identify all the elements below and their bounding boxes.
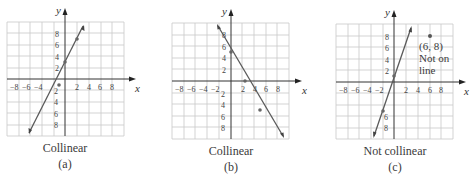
- point-c-off-line: [428, 34, 432, 38]
- annotation-line1: Not on: [419, 52, 449, 64]
- svg-text:4: 4: [87, 83, 91, 92]
- svg-text:−6: −6: [187, 85, 196, 94]
- svg-text:6: 6: [222, 43, 226, 52]
- svg-text:−8: −8: [175, 85, 184, 94]
- svg-text:6: 6: [55, 41, 59, 50]
- point-a-2: [63, 60, 67, 64]
- svg-text:8: 8: [439, 86, 443, 95]
- svg-text:−4: −4: [199, 85, 208, 94]
- point-a-3: [75, 37, 79, 41]
- svg-text:−8: −8: [339, 86, 348, 95]
- svg-text:2: 2: [75, 83, 79, 92]
- svg-text:2: 2: [404, 86, 408, 95]
- svg-text:2: 2: [55, 64, 59, 73]
- svg-text:6: 6: [264, 85, 268, 94]
- svg-text:−4: −4: [363, 86, 372, 95]
- point-b-2: [243, 79, 247, 83]
- point-b-1: [229, 50, 233, 54]
- svg-text:2: 2: [221, 90, 225, 99]
- point-a-1: [57, 83, 61, 87]
- svg-text:6: 6: [221, 113, 225, 122]
- y-axis-label-c: y: [384, 6, 390, 18]
- svg-text:2: 2: [54, 87, 58, 96]
- panel-label-c: (c): [315, 160, 473, 175]
- svg-text:8: 8: [54, 121, 58, 130]
- svg-text:6: 6: [385, 44, 389, 53]
- svg-text:8: 8: [55, 30, 59, 39]
- panel-label-a: (a): [0, 157, 145, 172]
- svg-text:8: 8: [221, 124, 225, 133]
- svg-text:−2: −2: [375, 86, 384, 95]
- caption-b: Collinear: [151, 144, 311, 159]
- svg-text:4: 4: [54, 98, 58, 107]
- svg-text:2: 2: [241, 85, 245, 94]
- svg-text:8: 8: [110, 83, 114, 92]
- x-axis-label-c: x: [463, 85, 469, 97]
- graph-panel-c: −8−6−4−2 2468 8642 68 y x (6, 8) Not on …: [329, 0, 473, 182]
- svg-text:6: 6: [428, 86, 432, 95]
- svg-text:−6: −6: [351, 86, 360, 95]
- svg-text:−8: −8: [10, 83, 19, 92]
- point-b-3: [258, 108, 262, 112]
- svg-text:6: 6: [98, 83, 102, 92]
- svg-text:2: 2: [222, 66, 226, 75]
- svg-text:−2: −2: [211, 85, 220, 94]
- svg-text:8: 8: [384, 124, 388, 133]
- svg-text:2: 2: [385, 67, 389, 76]
- svg-text:4: 4: [222, 54, 226, 63]
- annotation-point: (6, 8): [419, 40, 443, 52]
- annotation-line2: line: [419, 64, 436, 76]
- y-axis-label-b: y: [221, 5, 227, 17]
- svg-text:−4: −4: [34, 83, 43, 92]
- graph-panel-a: −8−6−4 2468 8642 2468 y x Collinear (a): [0, 0, 160, 182]
- svg-text:−6: −6: [22, 83, 31, 92]
- point-c-2: [381, 109, 385, 113]
- svg-text:4: 4: [416, 86, 420, 95]
- svg-text:4: 4: [55, 53, 59, 62]
- svg-text:6: 6: [54, 110, 58, 119]
- point-c-1: [392, 74, 396, 78]
- panel-label-b: (b): [151, 160, 311, 175]
- svg-text:6: 6: [384, 113, 388, 122]
- svg-text:4: 4: [221, 101, 225, 110]
- x-axis-label-a: x: [134, 82, 140, 94]
- caption-a: Collinear: [0, 141, 145, 156]
- graph-panel-b: −8−6−4−2 2468 8642 2468 y x Collinear (b…: [165, 0, 325, 182]
- svg-text:8: 8: [276, 85, 280, 94]
- caption-c: Not collinear: [315, 144, 473, 159]
- y-axis-label-a: y: [55, 4, 61, 16]
- svg-text:8: 8: [385, 33, 389, 42]
- x-axis-label-b: x: [301, 84, 307, 96]
- svg-text:4: 4: [385, 56, 389, 65]
